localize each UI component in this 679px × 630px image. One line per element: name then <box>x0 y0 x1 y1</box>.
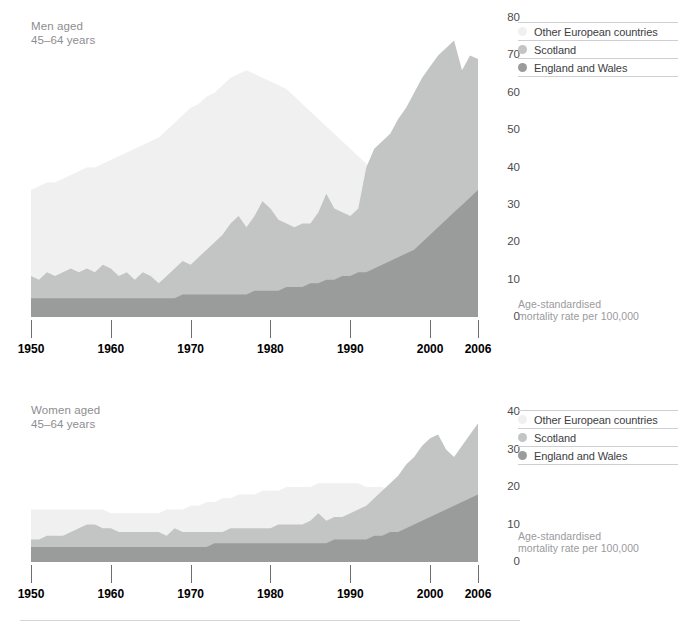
x-tick-mark <box>191 320 192 338</box>
x-tick-label: 1960 <box>97 342 124 356</box>
legend-men: Other European countriesScotlandEngland … <box>518 22 678 77</box>
legend-item[interactable]: Other European countries <box>518 410 678 428</box>
x-tick-label: 1980 <box>257 342 284 356</box>
area-chart-women <box>31 412 478 562</box>
legend-item[interactable]: Scotland <box>518 40 678 58</box>
x-tick-mark <box>350 565 351 583</box>
y-tick-label: 50 <box>507 124 520 136</box>
x-tick-mark <box>31 565 32 583</box>
legend-item-label: Other European countries <box>534 414 658 426</box>
x-tick-label: 2006 <box>465 587 492 601</box>
y-tick-label: 30 <box>507 199 520 211</box>
chart-panel-men: Men aged 45–64 years 01020304050607080 1… <box>0 0 679 385</box>
x-tick-mark <box>478 320 479 338</box>
legend-item-label: Scotland <box>534 432 576 444</box>
legend-swatch-circle-icon <box>518 415 527 424</box>
legend-item-label: Other European countries <box>534 26 658 38</box>
legend-item-label: England and Wales <box>534 450 627 462</box>
x-tick-label: 1980 <box>257 587 284 601</box>
legend-item[interactable]: England and Wales <box>518 58 678 77</box>
legend-swatch-circle-icon <box>518 63 527 72</box>
y-tick-label: 20 <box>507 236 520 248</box>
axis-caption-women: Age-standardised mortality rate per 100,… <box>518 530 639 554</box>
y-axis-men: 01020304050607080 <box>486 18 520 317</box>
y-tick-label: 40 <box>507 162 520 174</box>
legend-swatch-circle-icon <box>518 433 527 442</box>
legend-swatch-circle-icon <box>518 45 527 54</box>
y-tick-label: 0 <box>514 556 520 568</box>
y-axis-women: 010203040 <box>486 412 520 562</box>
legend-swatch-circle-icon <box>518 27 527 36</box>
y-tick-label: 10 <box>507 519 520 531</box>
x-tick-label: 1950 <box>18 342 45 356</box>
x-tick-label: 2000 <box>417 342 444 356</box>
x-tick-label: 1990 <box>337 342 364 356</box>
x-tick-mark <box>478 565 479 583</box>
legend-women: Other European countriesScotlandEngland … <box>518 410 678 465</box>
x-tick-label: 1970 <box>177 587 204 601</box>
x-tick-label: 1970 <box>177 342 204 356</box>
x-tick-mark <box>430 320 431 338</box>
legend-item-label: Scotland <box>534 44 576 56</box>
legend-swatch-circle-icon <box>518 451 527 460</box>
x-tick-mark <box>191 565 192 583</box>
footer-divider <box>20 620 520 621</box>
x-tick-mark <box>430 565 431 583</box>
x-tick-mark <box>350 320 351 338</box>
y-tick-label: 60 <box>507 87 520 99</box>
legend-item[interactable]: Scotland <box>518 428 678 446</box>
axis-caption-men: Age-standardised mortality rate per 100,… <box>518 298 639 322</box>
x-tick-mark <box>270 565 271 583</box>
x-tick-mark <box>111 320 112 338</box>
legend-item[interactable]: Other European countries <box>518 22 678 40</box>
x-tick-label: 1950 <box>18 587 45 601</box>
x-tick-mark <box>270 320 271 338</box>
x-tick-mark <box>31 320 32 338</box>
y-tick-label: 10 <box>507 274 520 286</box>
y-tick-label: 20 <box>507 481 520 493</box>
legend-item[interactable]: England and Wales <box>518 446 678 465</box>
x-tick-label: 2006 <box>465 342 492 356</box>
x-tick-label: 1990 <box>337 587 364 601</box>
area-chart-men <box>31 18 478 317</box>
x-tick-mark <box>111 565 112 583</box>
x-tick-label: 2000 <box>417 587 444 601</box>
legend-item-label: England and Wales <box>534 62 627 74</box>
x-tick-label: 1960 <box>97 587 124 601</box>
